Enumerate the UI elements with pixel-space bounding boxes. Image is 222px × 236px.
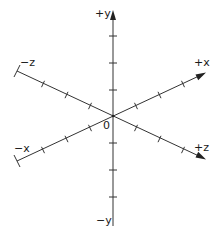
z-axis-line <box>17 71 200 157</box>
origin-label: 0 <box>103 120 110 131</box>
neg-x-label: −x <box>14 143 30 154</box>
x-axis-ticks <box>14 81 185 167</box>
neg-y-label: −y <box>96 215 112 226</box>
axes-diagram <box>0 0 222 236</box>
neg-z-label: −z <box>20 57 35 68</box>
pos-z-label: +z <box>194 142 209 153</box>
pos-x-label: +x <box>194 57 210 68</box>
pos-y-label: +y <box>95 8 111 19</box>
pos-x-arrowhead-icon <box>196 73 207 81</box>
origin-point <box>112 115 115 118</box>
